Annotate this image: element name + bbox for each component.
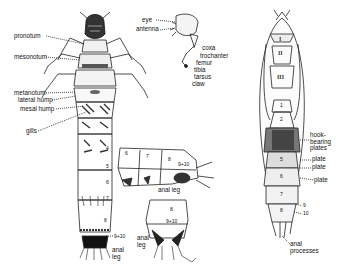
- abdomen-number: 5: [280, 157, 283, 162]
- abdomen-number: 1: [280, 103, 283, 108]
- segment-number: 6: [106, 180, 109, 185]
- label-seg-9-10: 9+10: [114, 233, 125, 240]
- label-plate-1: plate: [312, 156, 326, 163]
- label-mesonotum: mesonotum: [14, 54, 47, 61]
- abdomen-number: 6: [280, 174, 283, 179]
- label-pupa-seg-9: 9: [303, 203, 306, 208]
- label-mesal-hump: mesal hump: [20, 106, 54, 113]
- label-pronotum: pronotum: [14, 33, 41, 40]
- label-antenna: antenna: [136, 26, 159, 33]
- segment-number: 6: [125, 151, 128, 156]
- segment-number: 5: [106, 164, 109, 169]
- thorax-numeral: II: [278, 50, 283, 56]
- thorax-numeral: III: [277, 74, 284, 80]
- label-plate-3: plate: [314, 177, 328, 184]
- label-gills: gills: [26, 128, 37, 135]
- label-ventral-seg-8: 8: [170, 207, 173, 212]
- label-ventral-seg-9-10: 9+10: [166, 218, 177, 225]
- abdomen-number: 7: [280, 192, 283, 197]
- segment-number: 7: [106, 196, 109, 201]
- segment-number: 7: [146, 154, 149, 159]
- label-lateral-anal-leg: anal leg: [158, 187, 180, 194]
- label-coxa: coxa: [202, 45, 215, 52]
- illustration-lines: [0, 0, 339, 270]
- label-lateral-hump: lateral hump: [18, 97, 53, 104]
- label-plate-2: plate: [312, 164, 326, 171]
- label-lateral-seg-9-10: 9+10: [178, 161, 189, 168]
- segment-number: 8: [168, 157, 171, 162]
- label-ventral-anal-leg: anal leg: [137, 235, 149, 248]
- thorax-numeral: I: [279, 36, 281, 42]
- insect-larva-pupa-diagram: pronotum mesonotum metanotum lateral hum…: [0, 0, 339, 270]
- label-hook-bearing-plates: hook- bearing plates: [310, 132, 331, 152]
- segment-number: 8: [104, 218, 107, 223]
- label-anal-leg: anal leg: [112, 247, 124, 260]
- segment-number: 4: [106, 146, 109, 151]
- abdomen-number: 2: [280, 117, 283, 122]
- label-pupa-seg-10: 10: [303, 211, 309, 216]
- label-claw: claw: [192, 81, 205, 88]
- label-eye: eye: [142, 17, 152, 24]
- abdomen-number: 8: [280, 208, 283, 213]
- label-anal-processes: anal processes: [290, 241, 319, 254]
